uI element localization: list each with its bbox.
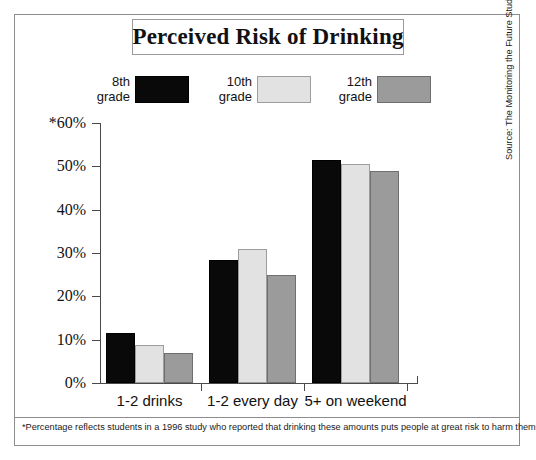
chart-title-box: Perceived Risk of Drinking [132,19,404,55]
footnote-text: *Percentage reflects students in a 1996 … [22,421,492,433]
page-title: Perceived Risk of Drinking [132,24,403,50]
bar-5-on-weekend-series-3 [370,171,399,383]
x-axis-category-label: 5+ on weekend [296,392,416,409]
y-axis-label-wrap: 40% [28,210,86,211]
y-axis-label-wrap: 50% [28,166,86,167]
legend-swatch-grade8 [135,76,189,103]
y-axis-tick-label: 0% [28,374,86,392]
bar-1-2-every-day-series-2 [238,249,267,383]
x-axis-category-label: 1-2 every day [193,392,313,409]
chart-figure: Perceived Risk of Drinking 8th grade 10t… [0,0,536,460]
y-axis-label-wrap: 10% [28,340,86,341]
y-axis-tick [92,123,101,124]
y-axis-tick-label: 40% [28,201,86,219]
y-axis-tick [92,166,101,167]
legend-swatch-grade10 [257,76,311,103]
bar-1-2-every-day-series-3 [267,275,296,383]
y-axis-label-wrap: 0% [28,383,86,384]
bar-1-2-every-day-series-1 [209,260,238,383]
x-axis-tick [304,383,305,391]
y-axis-tick [92,383,101,384]
bar-5-on-weekend-series-2 [341,164,370,383]
x-axis-end-tick [417,376,418,384]
y-axis-tick-label: 50% [28,157,86,175]
bar-1-2-drinks-series-3 [164,353,193,383]
bar-1-2-drinks-series-2 [135,345,164,383]
chart-legend: 8th grade 10th grade 12th grade [86,71,416,107]
legend-label-grade12: 12th grade [328,74,372,104]
y-axis-label-wrap: *60% [28,123,86,124]
x-axis-category-label: 1-2 drinks [90,392,210,409]
y-axis-tick [92,296,101,297]
y-axis-label-wrap: 30% [28,253,86,254]
legend-item-grade8: 8th grade [86,71,189,107]
x-axis-tick [407,383,408,391]
legend-item-grade10: 10th grade [208,71,311,107]
y-axis-tick [92,210,101,211]
y-axis-tick-label: *60% [28,114,86,132]
y-axis-tick-label: 30% [28,244,86,262]
x-axis-line [100,383,418,384]
y-axis-tick [92,340,101,341]
y-axis-tick-label: 20% [28,287,86,305]
source-credit-text: Source: The Monitoring the Future Study,… [504,0,514,160]
footnote-divider [15,417,519,418]
y-axis-tick [92,253,101,254]
bar-1-2-drinks-series-1 [106,333,135,383]
legend-label-grade8: 8th grade [86,74,130,104]
bar-5-on-weekend-series-1 [312,160,341,383]
legend-swatch-grade12 [377,76,431,103]
legend-label-grade10: 10th grade [208,74,252,104]
x-axis-tick [201,383,202,391]
legend-item-grade12: 12th grade [328,71,431,107]
y-axis-label-wrap: 20% [28,296,86,297]
y-axis-tick-label: 10% [28,331,86,349]
